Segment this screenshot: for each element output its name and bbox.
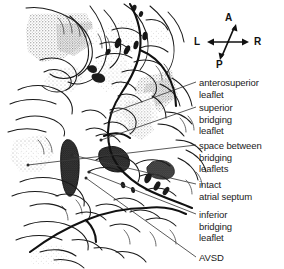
label-line: bridging <box>199 152 262 164</box>
label-line: bridging <box>199 221 232 233</box>
label-anterosuperior-leaflet: anterosuperior leaflet <box>199 77 259 100</box>
label-inferior-bridging-leaflet: inferior bridging leaflet <box>199 209 232 244</box>
label-line: bridging <box>199 114 233 126</box>
label-line: superior <box>199 102 233 114</box>
label-line: anterosuperior <box>199 77 259 89</box>
label-line: space between <box>199 140 262 152</box>
label-line: AVSD <box>199 252 224 264</box>
compass-label-left: L <box>194 37 200 47</box>
label-line: leaflet <box>199 89 259 101</box>
label-intact-atrial-septum: intact atrial septum <box>199 179 252 202</box>
anatomical-line-drawing <box>0 0 284 269</box>
compass-label-right: R <box>254 37 261 47</box>
compass-label-posterior: P <box>216 60 223 70</box>
label-line: leaflet <box>199 125 233 137</box>
label-superior-bridging-leaflet: superior bridging leaflet <box>199 102 233 137</box>
label-line: leaflet <box>199 232 232 244</box>
label-line: intact <box>199 179 252 191</box>
avsd-anatomy-figure: A P L R anterosuperior leaflet superior … <box>0 0 284 269</box>
compass-label-anterior: A <box>225 13 232 23</box>
label-avsd: AVSD <box>199 252 224 264</box>
label-line: inferior <box>199 209 232 221</box>
label-line: atrial septum <box>199 191 252 203</box>
label-line: leaflets <box>199 163 262 175</box>
label-space-between-bridging-leaflets: space between bridging leaflets <box>199 140 262 175</box>
